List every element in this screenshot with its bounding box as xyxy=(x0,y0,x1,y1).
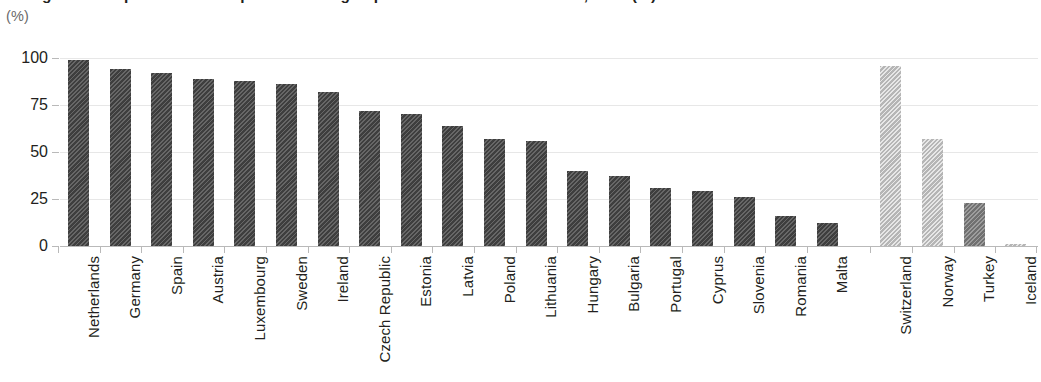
bar-turkey[interactable] xyxy=(964,203,985,246)
bar-austria[interactable] xyxy=(193,79,214,246)
bar-bulgaria[interactable] xyxy=(609,176,630,246)
bar-portugal[interactable] xyxy=(650,188,671,246)
bar-luxembourg[interactable] xyxy=(234,81,255,246)
bar-germany[interactable] xyxy=(110,69,131,246)
bar-poland[interactable] xyxy=(484,139,505,246)
bar-ireland[interactable] xyxy=(318,92,339,246)
bar-switzerland[interactable] xyxy=(880,66,901,246)
bar-latvia[interactable] xyxy=(442,126,463,246)
bar-hungary[interactable] xyxy=(567,171,588,246)
bar-norway[interactable] xyxy=(922,139,943,246)
bar-slovenia[interactable] xyxy=(734,197,755,246)
figure-container: Figure 1. Proportion of enterprises with… xyxy=(0,0,1041,382)
bar-romania[interactable] xyxy=(775,216,796,246)
bar-cyprus[interactable] xyxy=(692,191,713,246)
bar-lithuania[interactable] xyxy=(526,141,547,246)
bar-series xyxy=(0,0,1041,382)
bar-estonia[interactable] xyxy=(401,114,422,246)
bar-sweden[interactable] xyxy=(276,84,297,246)
bar-malta[interactable] xyxy=(817,223,838,246)
bar-iceland[interactable] xyxy=(1005,244,1026,246)
bar-czech-republic[interactable] xyxy=(359,111,380,246)
bar-netherlands[interactable] xyxy=(68,60,89,246)
bar-spain[interactable] xyxy=(151,73,172,246)
